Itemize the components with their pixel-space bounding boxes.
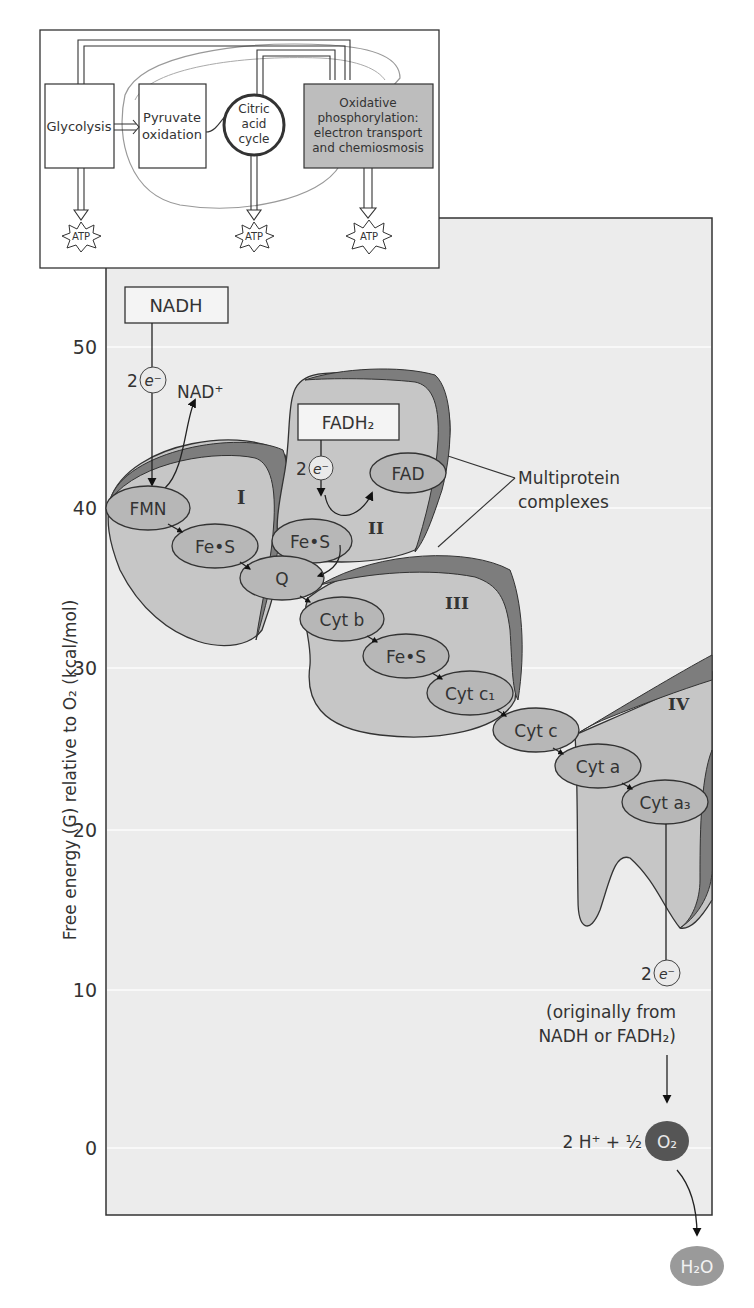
complex-i-label: I: [237, 487, 245, 508]
nadh-label: NADH: [149, 295, 202, 316]
multiprotein-label: Multiprotein: [518, 468, 620, 488]
carrier-cyt-c1: Cyt c₁: [445, 684, 495, 704]
nad-plus-label: NAD⁺: [177, 382, 223, 402]
svg-text:ATP: ATP: [360, 231, 378, 242]
svg-text:2: 2: [296, 459, 307, 479]
carrier-q: Q: [275, 569, 288, 589]
complex-ii-label: II: [368, 518, 384, 538]
svg-text:complexes: complexes: [518, 492, 609, 512]
tick-0: 0: [85, 1137, 97, 1159]
carrier-fes-2: Fe•S: [290, 532, 330, 552]
glycolysis-label: Glycolysis: [47, 119, 112, 134]
carrier-cyt-a: Cyt a: [576, 757, 620, 777]
tick-40: 40: [73, 497, 97, 519]
carrier-fad: FAD: [392, 464, 425, 484]
svg-text:phosphorylation:: phosphorylation:: [317, 111, 418, 125]
carrier-cyt-b: Cyt b: [320, 610, 365, 630]
fadh2-label: FADH₂: [322, 413, 375, 433]
reaction-label: 2 H⁺ + ½: [562, 1132, 642, 1152]
complex-iv-label: IV: [668, 694, 690, 714]
svg-text:and chemiosmosis: and chemiosmosis: [312, 141, 423, 155]
o2-label: O₂: [657, 1132, 677, 1152]
carrier-cyt-c: Cyt c: [514, 721, 557, 741]
svg-text:oxidation: oxidation: [142, 127, 202, 142]
carrier-fes-3: Fe•S: [386, 647, 426, 667]
origin-note: (originally from: [546, 1002, 676, 1022]
svg-text:NADH or FADH₂): NADH or FADH₂): [538, 1026, 676, 1046]
carrier-fmn: FMN: [129, 499, 166, 519]
svg-text:e⁻: e⁻: [313, 461, 329, 477]
tick-50: 50: [73, 336, 97, 358]
complex-iii-label: III: [445, 593, 469, 613]
svg-text:Citric: Citric: [238, 102, 269, 116]
svg-text:2: 2: [641, 964, 652, 984]
svg-text:2: 2: [127, 371, 138, 391]
h2o-label: H₂O: [681, 1257, 714, 1277]
electron-transport-chain-figure: 50 40 30 20 10 0 I II III IV NADH 2 e⁻: [0, 0, 754, 1308]
svg-text:e⁻: e⁻: [659, 966, 675, 982]
carrier-fes-1: Fe•S: [195, 537, 235, 557]
svg-text:acid: acid: [242, 117, 267, 131]
electron-icon: e⁻: [144, 372, 161, 390]
svg-text:ATP: ATP: [245, 231, 263, 242]
y-axis-title: Free energy (G) relative to O₂ (kcal/mol…: [60, 580, 80, 960]
svg-text:electron transport: electron transport: [314, 126, 423, 140]
svg-text:ATP: ATP: [72, 231, 90, 242]
carrier-cyt-a3: Cyt a₃: [639, 793, 690, 813]
tick-10: 10: [73, 979, 97, 1001]
svg-text:Pyruvate: Pyruvate: [143, 110, 201, 125]
pyruvate-oxidation-box: [139, 84, 206, 168]
respiration-overview-inset: Glycolysis Pyruvate oxidation Citric aci…: [40, 30, 439, 268]
svg-text:cycle: cycle: [238, 132, 269, 146]
svg-text:Oxidative: Oxidative: [339, 96, 396, 110]
